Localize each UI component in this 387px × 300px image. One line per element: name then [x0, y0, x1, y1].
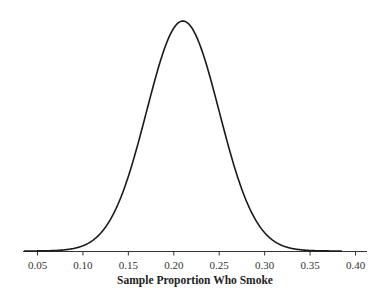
- x-axis-title: Sample Proportion Who Smoke: [117, 274, 273, 287]
- x-tick-label: 0.10: [73, 259, 93, 271]
- x-axis-ticks: 0.050.100.150.200.250.300.350.40: [28, 252, 366, 271]
- x-tick-label: 0.15: [119, 259, 139, 271]
- x-tick-label: 0.05: [28, 259, 48, 271]
- density-curve: [24, 21, 342, 251]
- normal-curve-chart: 0.050.100.150.200.250.300.350.40 Sample …: [0, 0, 387, 300]
- x-tick-label: 0.25: [210, 259, 230, 271]
- x-tick-label: 0.30: [255, 259, 275, 271]
- x-tick-label: 0.35: [300, 259, 320, 271]
- x-tick-label: 0.20: [164, 259, 184, 271]
- x-axis: 0.050.100.150.200.250.300.350.40: [23, 252, 367, 271]
- x-tick-label: 0.40: [346, 259, 366, 271]
